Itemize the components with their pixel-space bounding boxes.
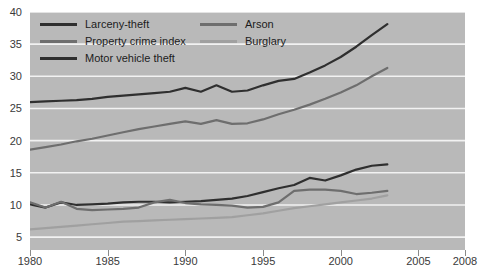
legend-swatch-line-icon: [40, 23, 77, 26]
y-tick-label: 40: [0, 7, 22, 18]
legend-item[interactable]: Motor vehicle theft: [40, 50, 186, 67]
legend-label: Arson: [245, 19, 274, 30]
legend-swatch-line-icon: [200, 23, 237, 26]
legend-column: Larceny-theftProperty crime indexMotor v…: [40, 16, 186, 67]
legend-item[interactable]: Burglary: [200, 33, 286, 50]
legend-item[interactable]: Larceny-theft: [40, 16, 186, 33]
x-tick-label: 2008: [445, 256, 485, 267]
y-tick-label: 15: [0, 168, 22, 179]
y-tick-label: 25: [0, 103, 22, 114]
x-tick-mark: [30, 250, 31, 256]
x-tick-mark: [418, 250, 419, 256]
x-tick-label: 1995: [243, 256, 283, 267]
y-tick-label: 20: [0, 136, 22, 147]
chart-figure: 510152025303540 198019851990199520002005…: [0, 0, 488, 280]
series-line-property-crime-index: [30, 68, 387, 150]
y-tick-label: 30: [0, 71, 22, 82]
x-tick-label: 1990: [165, 256, 205, 267]
legend-label: Property crime index: [85, 36, 186, 47]
x-tick-mark: [185, 250, 186, 256]
legend-swatch-line-icon: [40, 40, 77, 43]
legend-item[interactable]: Arson: [200, 16, 286, 33]
x-tick-label: 1980: [10, 256, 50, 267]
x-tick-label: 1985: [88, 256, 128, 267]
x-tick-label: 2000: [321, 256, 361, 267]
legend-label: Burglary: [245, 36, 286, 47]
y-tick-label: 35: [0, 39, 22, 50]
legend-item[interactable]: Property crime index: [40, 33, 186, 50]
x-tick-mark: [465, 250, 466, 256]
x-tick-mark: [263, 250, 264, 256]
y-tick-label: 10: [0, 200, 22, 211]
legend-label: Larceny-theft: [85, 19, 149, 30]
x-tick-mark: [108, 250, 109, 256]
x-tick-mark: [341, 250, 342, 256]
legend-swatch-line-icon: [40, 57, 77, 60]
series-line-motor-vehicle-theft: [30, 164, 387, 207]
legend-swatch-line-icon: [200, 40, 237, 43]
legend-column: ArsonBurglary: [200, 16, 286, 50]
y-tick-label: 5: [0, 232, 22, 243]
x-tick-label: 2005: [398, 256, 438, 267]
legend-label: Motor vehicle theft: [85, 53, 175, 64]
